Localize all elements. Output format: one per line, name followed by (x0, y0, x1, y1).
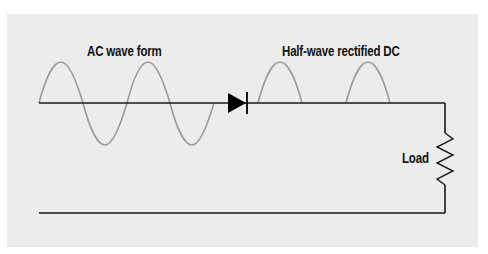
rectified-hump-1 (258, 62, 302, 103)
ac-waveform-label: AC wave form (87, 43, 162, 59)
diode-icon (228, 92, 247, 114)
load-label: Load (402, 150, 429, 166)
circuit-diagram (0, 0, 488, 254)
rectified-hump-2 (346, 62, 390, 103)
rectified-waveform-label: Half-wave rectified DC (282, 43, 400, 59)
load-resistor-icon (437, 133, 453, 185)
